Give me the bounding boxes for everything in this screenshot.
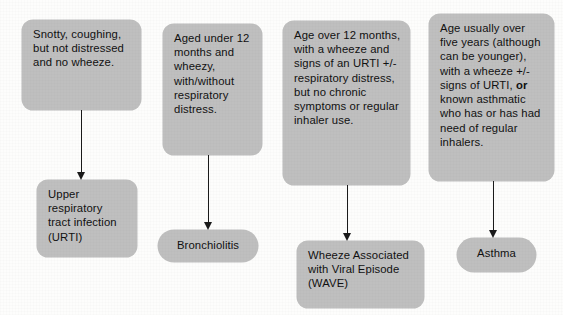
criteria-box-urti: Snotty, coughing, but not distressed and… — [22, 20, 141, 110]
criteria-box-asthma: Age usually over five years (although ca… — [429, 14, 554, 181]
criteria-text-asthma-part2: known asthmatic who has or has had need … — [440, 93, 540, 148]
outcome-box-asthma: Asthma — [457, 238, 536, 272]
flowchart-diagram: Snotty, coughing, but not distressed and… — [0, 0, 563, 315]
outcome-box-wave: Wheeze Associated with Viral Episode (WA… — [297, 241, 424, 308]
criteria-box-bronchiolitis: Aged under 12 months and wheezy, with/wi… — [163, 24, 262, 155]
outcome-box-bronchiolitis: Bronchiolitis — [158, 230, 258, 262]
outcome-box-urti: Upper respiratory tract infection (URTI) — [37, 180, 137, 257]
criteria-box-wave: Age over 12 months, with a wheeze and si… — [283, 21, 410, 185]
criteria-text-asthma-bold: or — [516, 79, 528, 91]
